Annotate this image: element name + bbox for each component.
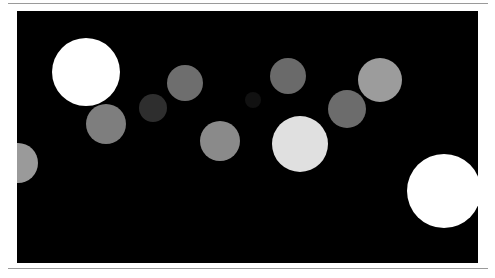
top-rule — [8, 3, 488, 4]
circle-0 — [52, 38, 120, 106]
circle-6 — [270, 58, 306, 94]
circle-8 — [328, 90, 366, 128]
circle-7 — [358, 58, 402, 102]
circle-11 — [407, 154, 478, 228]
circles-panel — [17, 11, 478, 263]
circle-3 — [86, 104, 126, 144]
circle-2 — [139, 94, 167, 122]
circle-10 — [17, 143, 38, 183]
circle-9 — [272, 116, 328, 172]
circle-5 — [245, 92, 261, 108]
circle-4 — [200, 121, 240, 161]
circle-1 — [167, 65, 203, 101]
bottom-rule — [8, 268, 488, 269]
